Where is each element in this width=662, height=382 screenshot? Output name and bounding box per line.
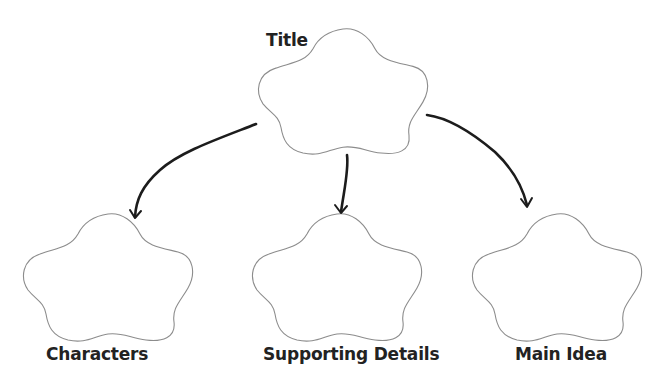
title-label: Title (266, 32, 308, 49)
supporting-details-node-shape (253, 214, 422, 341)
main-idea-label: Main Idea (515, 346, 607, 363)
arrow-to-supporting-details-icon (335, 155, 347, 213)
diagram-svg (0, 0, 662, 382)
arrow-to-characters-icon (130, 124, 256, 218)
characters-node-shape (24, 214, 193, 341)
graphic-organizer-diagram: Title Characters Supporting Details Main… (0, 0, 662, 382)
characters-label: Characters (46, 346, 148, 363)
main-idea-node-shape (473, 214, 642, 341)
arrow-to-main-idea-icon (427, 115, 532, 207)
supporting-details-label: Supporting Details (263, 346, 439, 363)
